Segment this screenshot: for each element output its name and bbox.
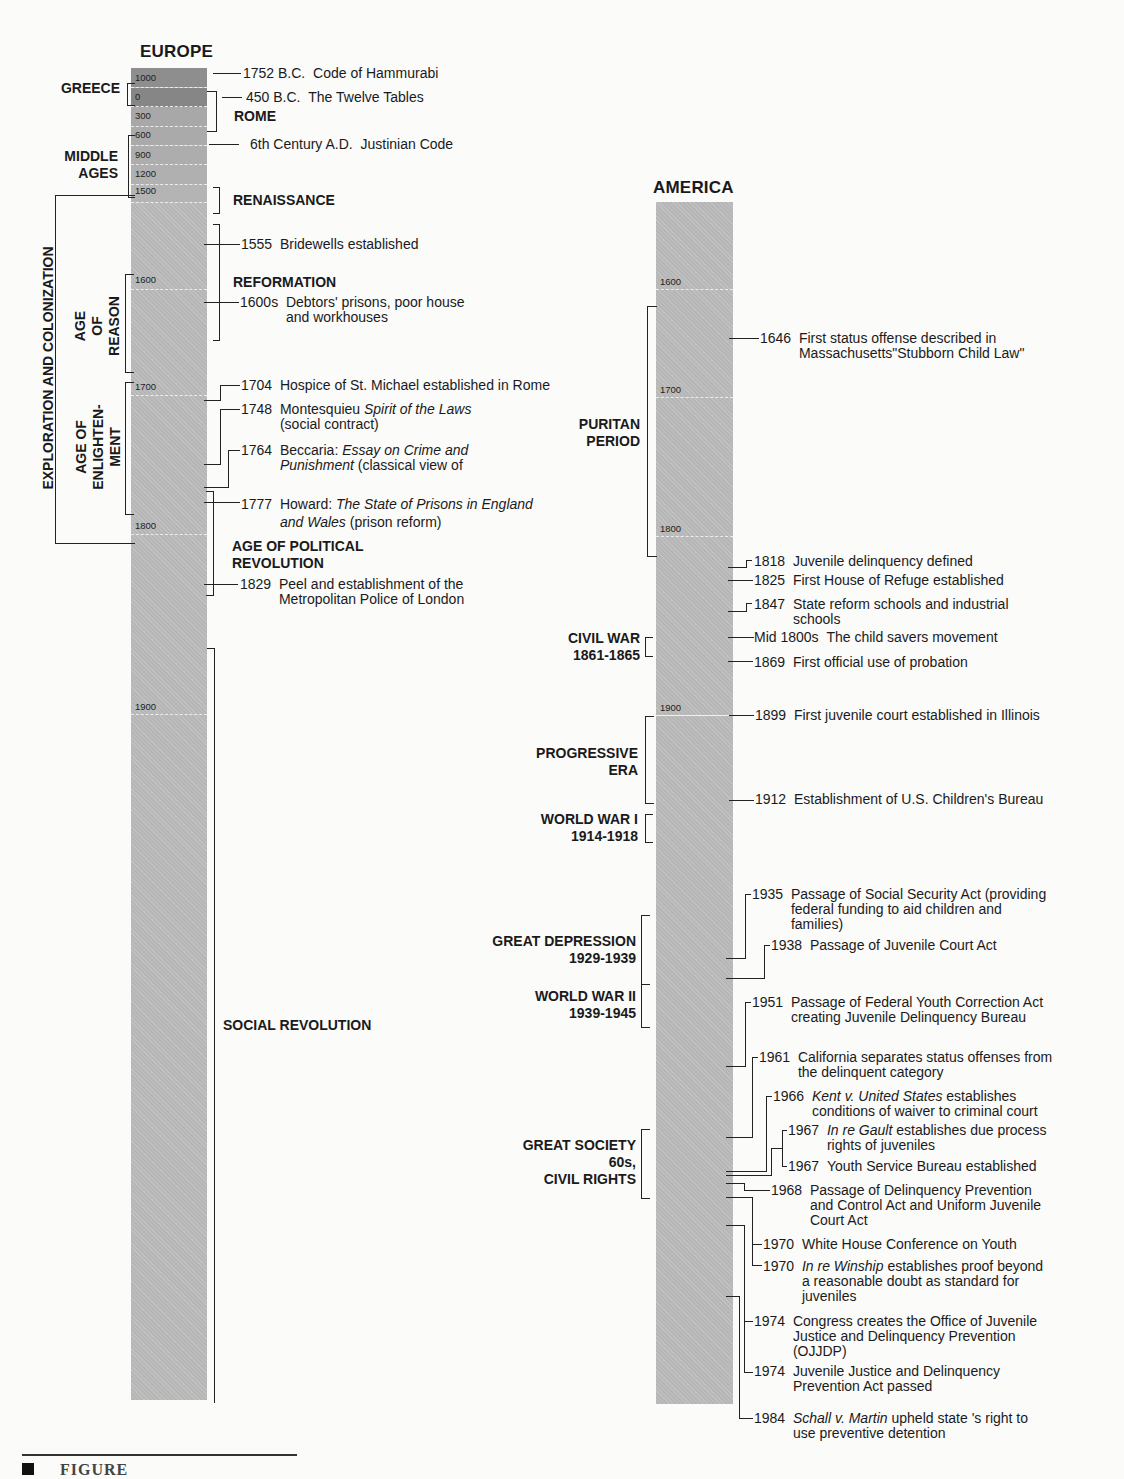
caption-marker-icon [22,1463,34,1475]
event-delinquency-prevention-act: 1968 Passage of Delinquency Prevention a… [771,1183,1041,1228]
event-house-of-refuge: 1825 First House of Refuge established [754,573,1004,588]
event-probation: 1869 First official use of probation [754,655,968,670]
event-hammurabi: 1752 B.C. Code of Hammurabi [243,66,438,81]
america-title: AMERICA [653,178,734,198]
tick-300: 300 [135,110,151,121]
tick-600: 600 [135,129,151,140]
tick-1500: 1500 [135,185,156,196]
period-reformation: REFORMATION [233,274,336,291]
segment-0 [131,88,207,107]
caption-rule [22,1454,297,1456]
event-in-re-gault: 1967 In re Gault establishes due process… [788,1123,1046,1153]
age-of-reason-bracket [125,274,134,373]
tick-1900: 1900 [135,701,156,712]
ww1-bracket [645,814,653,843]
event-childrens-bureau: 1912 Establishment of U.S. Children's Bu… [755,792,1043,807]
europe-timeline-bar: 1000 0 300 600 900 1200 1500 1600 1700 1… [131,68,207,1400]
event-jjdp-act: 1974 Juvenile Justice and Delinquency Pr… [754,1364,1000,1394]
tick-0: 0 [135,91,140,102]
period-enlightenment: AGE OF ENLIGHTEN- MENT [73,387,127,507]
period-political-revolution: AGE OF POLITICAL REVOLUTION [232,538,363,572]
event-howard: 1777 Howard: The State of Prisons in Eng… [241,495,533,531]
event-hospice-st-michael: 1704 Hospice of St. Michael established … [241,378,550,393]
event-reform-schools: 1847 State reform schools and industrial… [754,597,1009,627]
tick-1700: 1700 [660,384,681,395]
tick-1600: 1600 [135,274,156,285]
event-youth-service-bureau: 1967 Youth Service Bureau established [788,1159,1037,1174]
puritan-bracket [647,306,657,557]
period-depression: GREAT DEPRESSION 1929-1939 [470,933,636,967]
tick-1700: 1700 [135,381,156,392]
progressive-bracket [645,716,654,804]
event-montesquieu: 1748 Montesquieu Spirit of the Laws (soc… [241,402,471,432]
event-juvenile-court-act: 1938 Passage of Juvenile Court Act [771,938,997,953]
political-revolution-bracket [206,491,214,596]
middle-ages-bracket [128,135,135,198]
america-timeline-bar: 1600 1700 1800 1900 [656,202,733,1404]
europe-title: EUROPE [140,42,213,62]
event-child-savers: Mid 1800s The child savers movement [754,630,998,645]
period-greece: GREECE [40,80,120,97]
event-white-house-conference: 1970 White House Conference on Youth [763,1237,1017,1252]
tick-1800: 1800 [135,520,156,531]
period-age-of-reason: AGE OF REASON [72,276,124,376]
event-stubborn-child-law: 1646 First status offense described in M… [760,331,1024,361]
period-rome: ROME [234,108,276,125]
event-twelve-tables: 450 B.C. The Twelve Tables [246,90,424,105]
event-beccaria: 1764 Beccaria: Essay on Crime and Punish… [241,443,468,473]
event-social-security-act: 1935 Passage of Social Security Act (pro… [752,887,1046,932]
period-social-revolution: SOCIAL REVOLUTION [223,1017,371,1034]
reformation-bracket [213,224,220,341]
event-debtors-prisons: 1600s Debtors' prisons, poor house and w… [240,295,465,325]
event-bridewells: 1555 Bridewells established [241,237,418,252]
event-in-re-winship: 1970 In re Winship establishes proof bey… [763,1259,1043,1304]
tick-1200: 1200 [135,168,156,179]
event-schall-v-martin: 1984 Schall v. Martin upheld state 's ri… [754,1411,1028,1441]
event-justinian-code: 6th Century A.D. Justinian Code [250,137,453,152]
event-california-status-offenses: 1961 California separates status offense… [759,1050,1052,1080]
period-middle-ages: MIDDLE AGES [40,148,118,182]
period-civil-war: CIVIL WAR 1861-1865 [530,630,640,664]
period-exploration-colonization: EXPLORATION AND COLONIZATION [40,208,60,528]
event-youth-correction-act: 1951 Passage of Federal Youth Correction… [752,995,1043,1025]
social-revolution-bracket [207,648,215,1403]
event-kent-v-us: 1966 Kent v. United States establishes c… [773,1089,1038,1119]
tick-1900: 1900 [660,702,681,713]
depression-bracket [641,915,650,985]
great-society-bracket [641,1129,650,1199]
tick-1600: 1600 [660,276,681,287]
civil-war-bracket [645,637,653,657]
event-ojjdp: 1974 Congress creates the Office of Juve… [754,1314,1037,1359]
tick-1800: 1800 [660,523,681,534]
greece-bracket [127,83,135,106]
period-great-society: GREAT SOCIETY 60s, CIVIL RIGHTS [470,1137,636,1188]
renaissance-bracket [213,187,220,214]
period-ww1: WORLD WAR I 1914-1918 [510,811,638,845]
period-puritan: PURITAN PERIOD [540,416,640,450]
period-progressive: PROGRESSIVE ERA [510,745,638,779]
tick-1000: 1000 [135,72,156,83]
event-peel-police: 1829 Peel and establishment of the Metro… [240,577,464,607]
period-ww2: WORLD WAR II 1939-1945 [470,988,636,1022]
tick-900: 900 [135,149,151,160]
event-first-juvenile-court: 1899 First juvenile court established in… [755,708,1040,723]
ww2-bracket [641,984,650,1028]
period-renaissance: RENAISSANCE [233,192,335,209]
figure-caption: FIGURE [60,1461,128,1479]
event-juvenile-delinquency-defined: 1818 Juvenile delinquency defined [754,554,973,569]
rome-bracket [207,91,217,132]
